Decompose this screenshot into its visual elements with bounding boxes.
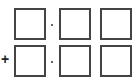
decimal-point-r2 [51, 61, 53, 63]
digit-box-r1-c2[interactable] [59, 8, 91, 40]
digit-box-r1-c3[interactable] [100, 8, 132, 40]
digit-box-r2-c2[interactable] [59, 45, 91, 77]
digit-box-r2-c3[interactable] [100, 45, 132, 77]
digit-box-r2-c1[interactable] [14, 45, 46, 77]
plus-operator: + [1, 52, 9, 66]
decimal-point-r1 [51, 24, 53, 26]
digit-box-r1-c1[interactable] [14, 8, 46, 40]
